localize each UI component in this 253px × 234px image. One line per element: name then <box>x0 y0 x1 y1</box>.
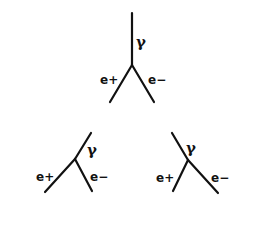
burst-icon <box>152 195 174 217</box>
burst-icon <box>217 195 239 217</box>
burst-icon <box>152 104 174 126</box>
photon-label-primary: γ <box>136 33 146 51</box>
positron-label-primary: e+ <box>100 73 118 87</box>
generation-1: γ e+ e− <box>100 13 166 102</box>
positron-label-left: e+ <box>36 170 54 184</box>
burst-icon <box>87 195 109 217</box>
positron-label-right: e+ <box>156 171 174 185</box>
burst-icon <box>90 104 112 126</box>
electron-label-left: e− <box>90 170 108 184</box>
electron-label-primary: e− <box>148 73 166 87</box>
generation-2-right: γ e+ e− <box>156 133 229 193</box>
photon-label-right: γ <box>186 139 196 157</box>
electron-label-right: e− <box>211 171 229 185</box>
burst-icon <box>21 195 43 217</box>
cascade-diagram: γ e+ e− γ e+ e− γ e+ e− <box>0 0 253 234</box>
positron-track-right <box>173 160 188 191</box>
generation-2-left: γ e+ e− <box>36 133 108 192</box>
photon-label-left: γ <box>87 141 97 159</box>
